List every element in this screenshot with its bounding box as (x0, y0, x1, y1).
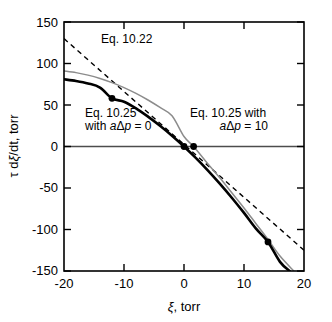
annotation-with-prefix: with (84, 119, 110, 133)
y-axis-title-rest: /dt, torr (6, 114, 21, 156)
annotation-value-0: = 0 (131, 119, 152, 133)
x-axis-title: ξ, torr (168, 299, 201, 314)
annotation-eq-10-25-line1: Eq. 10.25 (85, 106, 137, 120)
y-axis-title-tau: τ d (6, 162, 21, 178)
x-tick-label-10: 10 (237, 276, 251, 291)
chart-figure: 150 100 50 0 -50 -100 -150 -20 -10 0 10 … (0, 0, 332, 322)
y-tick-label-100: 100 (36, 56, 58, 71)
annotation-eq-10-25b-line2: aΔp = 10 (220, 119, 269, 133)
x-tick-label-20: 20 (297, 276, 311, 291)
y-axis-title: τ dξ/dt, torr (6, 114, 21, 178)
y-tick-label-0: 0 (51, 139, 58, 154)
annotation-delta: Δ (116, 119, 124, 133)
y-tick-label-50: 50 (44, 98, 58, 113)
annotation-eq-10-25-line2: with aΔp = 0 (84, 119, 152, 133)
y-tick-label-150: 150 (36, 15, 58, 30)
y-tick-label-neg50: -50 (39, 180, 58, 195)
data-point-marker (181, 143, 188, 150)
y-tick-label-neg100: -100 (32, 222, 58, 237)
x-tick-label-neg20: -20 (55, 276, 74, 291)
x-axis-title-rest: , torr (174, 299, 201, 314)
annotation-delta-2: Δ (226, 119, 234, 133)
annotation-eq-10-25b-line1: Eq. 10.25 with (190, 106, 266, 120)
annotation-eq-10-22: Eq. 10.22 (101, 32, 153, 46)
x-tick-label-0: 0 (180, 276, 187, 291)
data-point-marker (109, 95, 116, 102)
annotation-eq-10-22-label: Eq. 10.22 (101, 32, 153, 46)
data-point-marker (265, 239, 272, 246)
annotation-value-10: = 10 (241, 119, 268, 133)
data-point-marker (190, 143, 197, 150)
chart-svg: 150 100 50 0 -50 -100 -150 -20 -10 0 10 … (0, 0, 332, 322)
x-tick-label-neg10: -10 (115, 276, 134, 291)
